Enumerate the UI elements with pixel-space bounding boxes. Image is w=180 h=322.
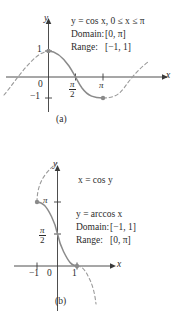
- panel-a-tick-label-zero: 0: [38, 79, 43, 89]
- panel-a-x-axis-label: x: [166, 70, 170, 80]
- panel-b-inverse-equation: y = arccos x: [76, 209, 122, 219]
- panel-b-y-axis-label: y: [53, 159, 57, 169]
- panel-a-range-value: [−1, 1]: [105, 42, 131, 52]
- panel-a-endpoint-dot-end: [101, 96, 105, 100]
- figure-panel-a: y x 1 0 −1 π 2 π y = cos x, 0 ≤ x ≤ π Do…: [0, 0, 180, 161]
- panel-b-tick-label-pi-over-two: π 2: [39, 226, 46, 245]
- panel-b-pi-over-two-denominator: 2: [39, 236, 46, 245]
- panel-b-domain-label: Domain:: [76, 222, 110, 232]
- panel-b-endpoint-dot-start: [35, 200, 39, 204]
- panel-a-endpoint-dot-start: [46, 49, 50, 53]
- panel-a-tick-label-neg-one: −1: [30, 91, 40, 101]
- panel-a-pi-over-two-denominator: 2: [69, 90, 76, 99]
- panel-b-equation: x = cos y: [78, 175, 113, 185]
- panel-b-tick-label-zero: 0: [47, 268, 52, 278]
- panel-b-y-axis: [55, 165, 61, 311]
- panel-a-y-axis-label: y: [44, 13, 48, 23]
- panel-a-tick-label-one: 1: [37, 44, 42, 54]
- panel-a-dashed-right: [103, 62, 148, 98]
- panel-b-range-value: [0, π]: [110, 235, 131, 245]
- panel-a-tick-label-pi: π: [99, 80, 104, 90]
- panel-b-domain-value: [−1, 1]: [110, 222, 136, 232]
- panel-a-caption: (a): [56, 114, 67, 124]
- panel-b-x-axis-label: x: [117, 259, 121, 269]
- panel-b-caption: (b): [55, 296, 66, 306]
- panel-a-range-label: Range:: [71, 42, 105, 52]
- panel-a-x-axis: [6, 74, 168, 80]
- figure-panel-b: y x π π 2 −1 0 1 x = cos y y = arccos x …: [0, 161, 180, 322]
- panel-a-domain-label: Domain:: [71, 29, 105, 39]
- panel-a-domain-value: [0, π]: [105, 29, 126, 39]
- panel-b-tick-label-one: 1: [72, 268, 77, 278]
- panel-b-domain-line: Domain:[−1, 1]: [76, 222, 136, 232]
- panel-a-range-line: Range:[−1, 1]: [71, 42, 131, 52]
- panel-b-range-label: Range:: [76, 235, 110, 245]
- panel-b-tick-label-pi: π: [43, 195, 48, 205]
- panel-b-range-line: Range:[0, π]: [76, 235, 131, 245]
- panel-b-tick-label-neg-one: −1: [29, 268, 39, 278]
- panel-a-equation: y = cos x, 0 ≤ x ≤ π: [71, 16, 145, 26]
- panel-b-dashed-lower: [77, 266, 96, 304]
- panel-a-domain-line: Domain:[0, π]: [71, 29, 126, 39]
- panel-a-tick-label-pi-over-two: π 2: [69, 80, 76, 99]
